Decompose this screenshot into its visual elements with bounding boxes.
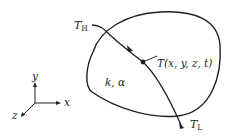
y-axis-arrow-icon [33, 82, 37, 87]
x-axis-arrow-icon [56, 101, 61, 105]
coordinate-axes [21, 82, 61, 117]
end-arrow-icon [179, 122, 184, 129]
y-axis-label: y [31, 70, 39, 82]
point-label: T(x, y, z, t) [157, 57, 212, 69]
point-leader-line [145, 56, 157, 61]
high-temp-label: TH [74, 19, 88, 33]
z-axis-label: z [11, 109, 18, 121]
temperature-path-curve [92, 25, 181, 125]
x-axis-label: x [64, 96, 70, 108]
point-marker [141, 60, 146, 65]
low-temp-label: TL [190, 118, 202, 132]
heat-conduction-diagram: TH T(x, y, z, t) k, α TL y x z [0, 0, 232, 139]
direction-arrow-icon [127, 45, 133, 52]
material-properties-label: k, α [105, 76, 125, 88]
z-axis-arrow-icon [21, 112, 25, 117]
